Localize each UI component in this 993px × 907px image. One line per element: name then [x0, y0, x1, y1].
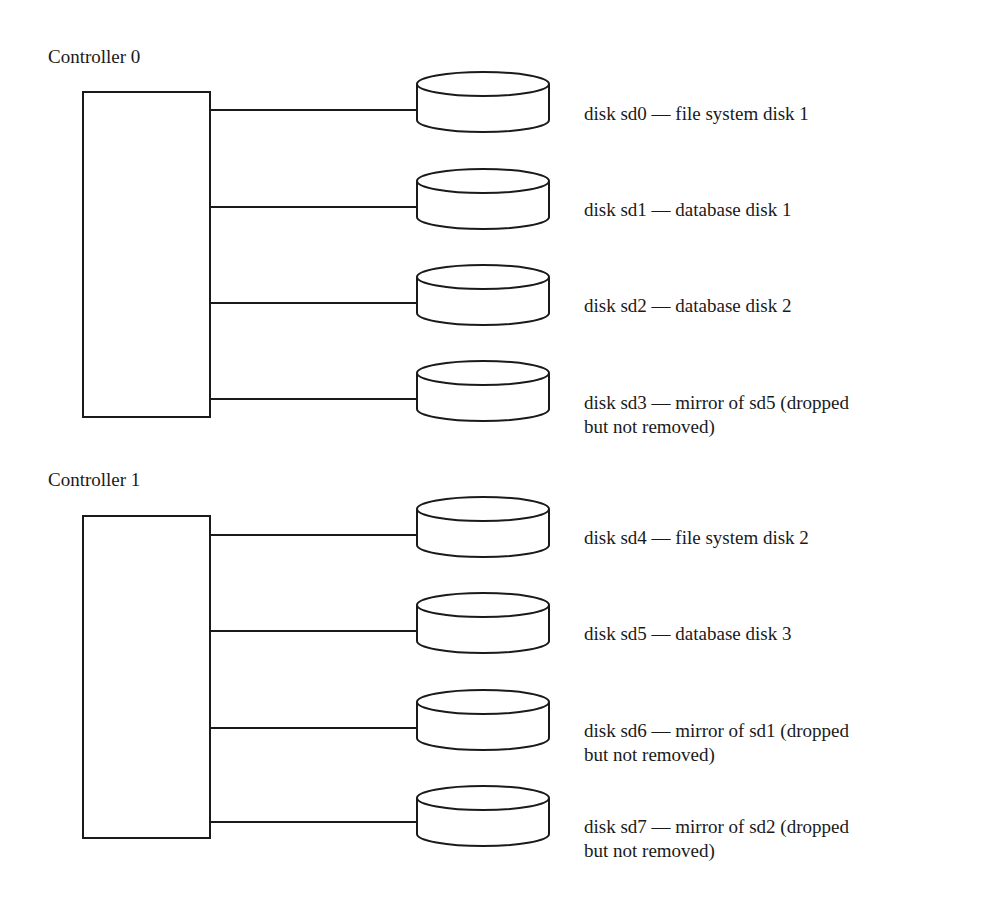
disk-sd5-label-line1: disk sd5 — database disk 3: [584, 622, 791, 646]
controller-0-box: [83, 92, 210, 417]
disk-topology-diagram: [0, 0, 993, 907]
disk-sd0-label-line1: disk sd0 — file system disk 1: [584, 102, 809, 126]
disk-sd7-label-line1: disk sd7 — mirror of sd2 (dropped: [584, 815, 849, 839]
disk-sd1-label: disk sd1 — database disk 1: [584, 198, 791, 222]
disk-sd1-cylinder-icon: [417, 169, 549, 229]
disk-sd2-label: disk sd2 — database disk 2: [584, 294, 791, 318]
disk-sd5-cylinder-icon: [417, 593, 549, 653]
controller-1-box: [83, 516, 210, 838]
disk-sd3-label-line2: but not removed): [584, 415, 849, 439]
disk-sd3-cylinder-icon: [417, 361, 549, 421]
disk-sd2-cylinder-icon: [417, 265, 549, 325]
disk-sd2-label-line1: disk sd2 — database disk 2: [584, 294, 791, 318]
disk-sd4-cylinder-icon: [417, 497, 549, 557]
disk-sd7-label: disk sd7 — mirror of sd2 (dropped but no…: [584, 815, 849, 863]
disk-sd0-label: disk sd0 — file system disk 1: [584, 102, 809, 126]
disk-sd6-label: disk sd6 — mirror of sd1 (dropped but no…: [584, 719, 849, 767]
disk-sd7-cylinder-icon: [417, 786, 549, 846]
disk-sd6-label-line1: disk sd6 — mirror of sd1 (dropped: [584, 719, 849, 743]
disk-sd5-label: disk sd5 — database disk 3: [584, 622, 791, 646]
disk-sd3-label-line1: disk sd3 — mirror of sd5 (dropped: [584, 391, 849, 415]
disk-sd7-label-line2: but not removed): [584, 839, 849, 863]
disk-sd4-label-line1: disk sd4 — file system disk 2: [584, 526, 809, 550]
disk-sd0-cylinder-icon: [417, 72, 549, 132]
disk-sd1-label-line1: disk sd1 — database disk 1: [584, 198, 791, 222]
disk-sd6-label-line2: but not removed): [584, 743, 849, 767]
controller-0-label: Controller 0: [48, 45, 140, 69]
disk-sd6-cylinder-icon: [417, 690, 549, 750]
controller-1-label: Controller 1: [48, 468, 140, 492]
disk-sd3-label: disk sd3 — mirror of sd5 (dropped but no…: [584, 391, 849, 439]
disk-sd4-label: disk sd4 — file system disk 2: [584, 526, 809, 550]
